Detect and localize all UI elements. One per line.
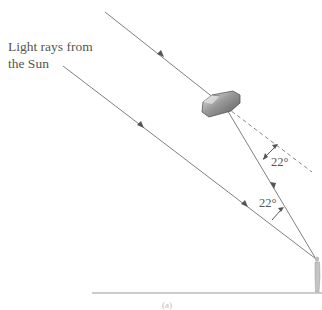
arrow-icon (241, 200, 248, 207)
label-line-1: Light rays from (8, 38, 128, 55)
label-line-2: the Sun (8, 55, 128, 72)
arrow-icon (137, 121, 144, 128)
angle-label-lower: 22° (259, 196, 277, 211)
light-rays-label: Light rays from the Sun (8, 38, 128, 72)
arrow-icon (270, 182, 276, 189)
arrow-icon (278, 207, 284, 212)
refracted-ray (226, 108, 316, 259)
arrow-icon (272, 144, 278, 149)
figure-caption: (a) (162, 300, 172, 310)
undeviated-extension-dashed (226, 107, 312, 172)
angle-label-upper: 22° (271, 155, 289, 170)
observer (315, 256, 320, 292)
